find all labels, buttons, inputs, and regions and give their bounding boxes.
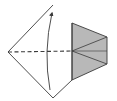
shaded-flap [72, 23, 107, 80]
valley-fold-line [8, 51, 72, 52]
origami-diagram [0, 0, 117, 101]
